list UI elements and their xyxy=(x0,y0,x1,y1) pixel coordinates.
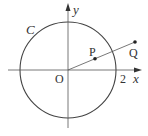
point-q-label: Q xyxy=(129,46,138,60)
circle-label: C xyxy=(26,22,35,37)
y-axis-arrow-icon xyxy=(66,3,71,11)
y-axis-label: y xyxy=(71,2,79,17)
x-tick-label-2: 2 xyxy=(120,72,126,86)
point-p-label: P xyxy=(89,45,96,59)
diagram-canvas: C y P Q O 2 x xyxy=(0,0,148,136)
coordinate-diagram: C y P Q O 2 x xyxy=(0,0,148,136)
ray-oq xyxy=(68,42,135,70)
point-q xyxy=(133,40,137,44)
origin-label: O xyxy=(55,72,64,86)
x-axis-label: x xyxy=(132,71,139,86)
